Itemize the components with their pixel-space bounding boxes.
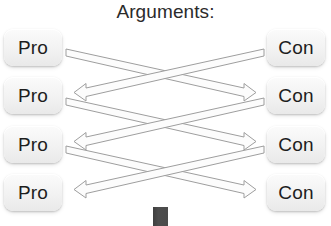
connector-pro3-to-con4: [66, 146, 256, 198]
con-box-2[interactable]: Con: [267, 77, 325, 114]
con-box-3[interactable]: Con: [267, 126, 325, 163]
con-box-1[interactable]: Con: [267, 29, 325, 66]
connector-con3-to-pro4: [74, 146, 264, 198]
pro-box-4[interactable]: Pro: [4, 174, 62, 211]
con-box-label: Con: [278, 135, 313, 154]
pro-box-3[interactable]: Pro: [4, 126, 62, 163]
con-box-4[interactable]: Con: [267, 174, 325, 211]
connector-pro1-to-con2: [66, 49, 256, 101]
diagram-canvas: Arguments: Pro: [0, 0, 331, 226]
con-box-label: Con: [278, 38, 313, 57]
pro-box-1[interactable]: Pro: [4, 29, 62, 66]
con-box-label: Con: [278, 183, 313, 202]
pro-box-2[interactable]: Pro: [4, 77, 62, 114]
connector-pro2-to-con3: [66, 98, 256, 150]
connector-con2-to-pro3: [74, 98, 264, 150]
pro-box-label: Pro: [18, 86, 48, 105]
pro-box-label: Pro: [18, 38, 48, 57]
bottom-block-marker: [153, 207, 168, 226]
pro-box-label: Pro: [18, 183, 48, 202]
con-box-label: Con: [278, 86, 313, 105]
pro-box-label: Pro: [18, 135, 48, 154]
connector-con1-to-pro2: [74, 49, 264, 101]
page-title: Arguments:: [0, 1, 331, 23]
